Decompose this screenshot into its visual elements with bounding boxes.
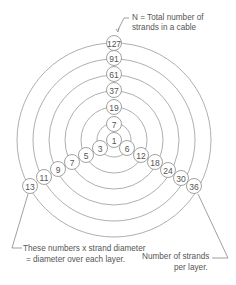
total-strands-note-line2: strands in a cable <box>132 23 197 32</box>
total-strands-bubble: 61 <box>107 67 122 82</box>
bubble-label: 5 <box>84 151 89 161</box>
diameter-multiplier-bubble: 7 <box>65 155 80 170</box>
bubble-label: 19 <box>109 103 119 113</box>
total-strands-bubble: 37 <box>107 83 122 98</box>
diameter-multiplier-bubble: 11 <box>37 170 52 185</box>
strands-per-layer-note-line1: Number of strands <box>142 252 209 261</box>
total-strands-note-line1: N = Total number of <box>132 13 204 22</box>
strands-per-layer-bubble: 36 <box>187 179 202 194</box>
right-leader-line <box>198 194 228 258</box>
strands-per-layer-bubble: 30 <box>174 171 189 186</box>
bubble-label: 61 <box>109 70 119 80</box>
bubble-label: 7 <box>112 120 117 130</box>
strands-per-layer-bubble: 6 <box>120 141 135 156</box>
total-strands-bubble: 91 <box>107 51 122 66</box>
strands-per-layer-bubble: 24 <box>161 163 176 178</box>
strands-per-layer-bubble: 12 <box>134 148 149 163</box>
number-bubbles: 12791613719713579111361218243036 <box>23 36 202 194</box>
bubble-label: 6 <box>125 144 130 154</box>
bubble-label: 127 <box>107 39 121 49</box>
diameter-note-line2: = diameter over each layer. <box>26 255 125 264</box>
bubble-label: 3 <box>98 144 103 154</box>
bubble-label: 91 <box>109 54 119 64</box>
bubble-label: 9 <box>56 165 61 175</box>
bubble-label: 24 <box>163 166 173 176</box>
total-strands-bubble: 1 <box>107 133 122 148</box>
total-strands-bubble: 19 <box>107 100 122 115</box>
bubble-label: 1 <box>112 136 117 146</box>
diameter-multiplier-bubble: 13 <box>23 179 38 194</box>
total-strands-bubble: 7 <box>107 117 122 132</box>
top-leader-arrow <box>116 28 119 32</box>
bubble-label: 7 <box>70 158 75 168</box>
bubble-label: 36 <box>189 182 199 192</box>
bubble-label: 18 <box>150 158 160 168</box>
bubble-label: 13 <box>25 182 35 192</box>
left-leader-line <box>12 194 28 248</box>
diameter-multiplier-bubble: 5 <box>79 148 94 163</box>
strands-per-layer-note-line2: per layer. <box>174 263 208 272</box>
strands-per-layer-bubble: 18 <box>148 155 163 170</box>
diameter-multiplier-bubble: 9 <box>51 162 66 177</box>
diameter-multiplier-bubble: 3 <box>93 141 108 156</box>
bubble-label: 37 <box>109 86 119 96</box>
bubble-label: 12 <box>136 151 146 161</box>
diameter-note-line1: These numbers x strand diameter <box>23 244 146 253</box>
bubble-label: 11 <box>40 173 49 183</box>
total-strands-bubble: 127 <box>107 36 122 51</box>
top-leader-line <box>118 18 129 30</box>
bubble-label: 30 <box>176 174 186 184</box>
strand-layer-diagram: 12791613719713579111361218243036 N = Tot… <box>0 0 236 285</box>
